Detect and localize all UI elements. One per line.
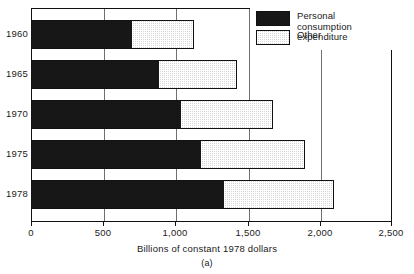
legend-swatch-other-icon	[256, 30, 290, 45]
tick-mark-500	[103, 222, 104, 226]
legend-swatch-pce-icon	[256, 11, 290, 26]
year-label-1975: 1975	[2, 149, 28, 159]
bar-segment-pce	[31, 140, 201, 169]
legend-label-other: Other	[297, 30, 321, 41]
tick-mark-1500	[248, 222, 249, 226]
tick-label-500: 500	[95, 227, 111, 238]
year-label-1978: 1978	[2, 189, 28, 199]
bar-segment-other	[224, 180, 334, 209]
bar-segment-pce	[31, 20, 132, 49]
bar-segment-pce	[31, 180, 224, 209]
year-label-1960: 1960	[2, 29, 28, 39]
tick-label-2000: 2,000	[308, 227, 333, 238]
bar-row	[31, 100, 273, 129]
bar-segment-other	[201, 140, 305, 169]
bar-segment-other	[132, 20, 194, 49]
year-label-1965: 1965	[2, 69, 28, 79]
figure-stacked-bar-chart: 1960 1965 1970 1975 1978 0 500 1,000 1,5…	[0, 0, 414, 274]
bar-row	[31, 180, 334, 209]
tick-label-2500: 2,500	[379, 227, 404, 238]
x-axis-title: Billions of constant 1978 dollars	[0, 243, 414, 254]
tick-mark-0	[31, 222, 32, 226]
tick-mark-2000	[320, 222, 321, 226]
bar-segment-pce	[31, 60, 159, 89]
y-axis-labels: 1960 1965 1970 1975 1978	[0, 8, 28, 222]
bar-row	[31, 20, 194, 49]
figure-caption: (a)	[0, 258, 414, 268]
bar-row	[31, 60, 237, 89]
tick-label-0: 0	[28, 227, 33, 238]
year-label-1970: 1970	[2, 109, 28, 119]
bar-segment-other	[181, 100, 273, 129]
tick-mark-2500	[391, 222, 392, 226]
legend-entry-other: Other	[256, 30, 321, 45]
bar-segment-other	[159, 60, 237, 89]
bar-row	[31, 140, 305, 169]
bar-segment-pce	[31, 100, 181, 129]
tick-label-1500: 1,500	[236, 227, 261, 238]
tick-mark-1000	[175, 222, 176, 226]
tick-label-1000: 1,000	[163, 227, 188, 238]
legend: Personal consumption expenditure Other	[250, 7, 392, 50]
x-axis-ticks: 0 500 1,000 1,500 2,000 2,500	[31, 222, 392, 242]
